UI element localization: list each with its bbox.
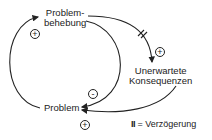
polarity-plus-icon: +	[155, 47, 165, 57]
polarity-plus-icon: +	[30, 29, 40, 39]
node-konsequenzen-line2: Konsequenzen	[129, 76, 192, 86]
legend: II = Verzögerung	[131, 119, 196, 129]
legend-text: = Verzögerung	[138, 119, 197, 129]
delay-symbol: II	[131, 119, 135, 129]
node-problem: Problem	[44, 103, 79, 113]
node-problembehebung: Problem- behebung	[44, 8, 86, 28]
arrow-behebung-to-konsequenzen	[88, 16, 152, 62]
polarity-plus-icon: +	[80, 120, 90, 130]
node-problembehebung-line2: behebung	[44, 18, 86, 28]
node-konsequenzen: Unerwartete Konsequenzen	[129, 66, 192, 86]
polarity-minus-icon: -	[88, 89, 98, 99]
